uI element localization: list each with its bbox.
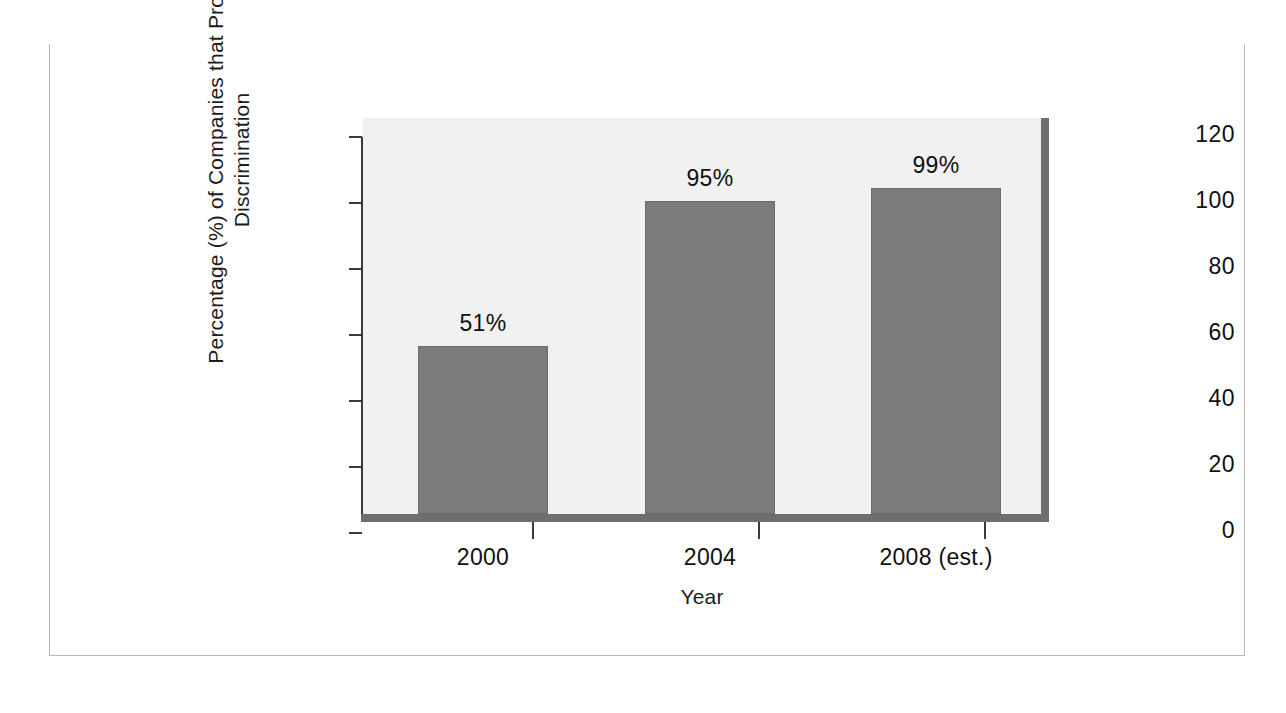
x-tick-2000 — [532, 522, 534, 539]
y-tick-label-120: 120 — [955, 121, 1245, 148]
y-axis-title-line1: Percentage (%) of Companies that Prohibi… — [203, 0, 229, 364]
y-tick-0 — [349, 532, 362, 534]
bar-2008[interactable] — [871, 188, 1001, 514]
y-tick-20 — [349, 466, 362, 468]
y-tick-100 — [349, 202, 362, 204]
y-tick-label-0: 0 — [955, 517, 1245, 544]
bar-chart: Discrimination Percentage (%) of Compani… — [49, 82, 1245, 656]
y-axis-title: Discrimination Percentage (%) of Compani… — [199, 0, 259, 370]
bar-2004[interactable] — [645, 201, 775, 514]
bar-label-2000: 51% — [413, 310, 553, 337]
y-tick-80 — [349, 268, 362, 270]
x-tick-label-2008: 2008 (est.) — [826, 544, 1046, 571]
y-tick-120 — [349, 136, 362, 138]
x-tick-2008 — [984, 522, 986, 539]
x-tick-label-2004: 2004 — [600, 544, 820, 571]
y-axis-title-line2: Discrimination — [229, 93, 255, 228]
x-axis-title: Year — [363, 585, 1041, 609]
x-tick-2004 — [758, 522, 760, 539]
bar-label-2004: 95% — [640, 165, 780, 192]
x-tick-label-2000: 2000 — [373, 544, 593, 571]
y-axis-line — [361, 137, 363, 515]
bar-2000[interactable] — [418, 346, 548, 514]
y-tick-60 — [349, 334, 362, 336]
y-tick-40 — [349, 400, 362, 402]
x-axis-baseline — [361, 514, 1049, 522]
bar-label-2008: 99% — [866, 152, 1006, 179]
